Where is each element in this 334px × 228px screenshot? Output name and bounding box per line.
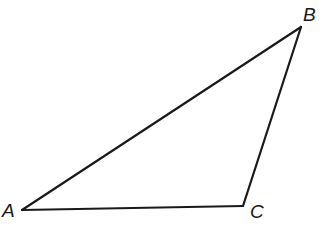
edge-bc <box>243 27 301 206</box>
vertex-label-a: A <box>1 200 15 221</box>
triangle-diagram: A B C <box>0 0 334 228</box>
vertex-label-b: B <box>303 4 316 25</box>
edge-ab <box>22 27 301 210</box>
vertex-label-c: C <box>250 201 264 222</box>
edge-ca <box>22 206 243 210</box>
